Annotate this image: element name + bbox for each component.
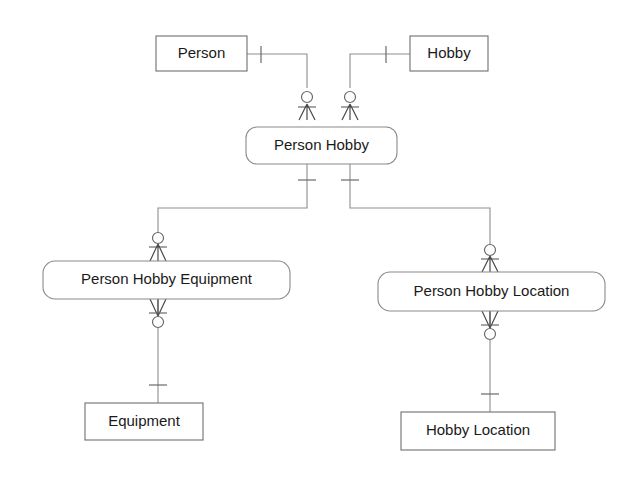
cardinality-zero-or-many-person-hobby-location-top bbox=[481, 245, 499, 273]
connector-hobby-to-person-hobby bbox=[350, 54, 410, 88]
entity-hobby-label: Hobby bbox=[427, 44, 471, 61]
connector-person-hobby-to-person-hobby-location bbox=[350, 164, 490, 251]
entity-person-hobby-label: Person Hobby bbox=[274, 136, 370, 153]
entity-hobby-location[interactable]: Hobby Location bbox=[401, 412, 555, 450]
connector-person-to-person-hobby bbox=[247, 54, 307, 88]
cardinality-zero-or-many-person-hobby-equipment-bottom bbox=[149, 299, 167, 328]
cardinality-zero-or-many-person-hobby-left bbox=[298, 92, 316, 121]
entity-person[interactable]: Person bbox=[156, 36, 247, 71]
cardinality-zero-or-many-person-hobby-equipment-top bbox=[149, 233, 167, 262]
cardinality-zero-or-many-person-hobby-right bbox=[341, 92, 359, 121]
entity-hobby[interactable]: Hobby bbox=[410, 36, 488, 71]
entity-person-hobby-location-label: Person Hobby Location bbox=[414, 282, 570, 299]
entity-person-hobby-equipment[interactable]: Person Hobby Equipment bbox=[43, 261, 290, 299]
entity-equipment[interactable]: Equipment bbox=[85, 403, 203, 440]
cardinality-zero-or-many-person-hobby-location-bottom bbox=[481, 311, 499, 340]
entity-person-label: Person bbox=[178, 44, 226, 61]
connector-person-hobby-to-person-hobby-equipment bbox=[158, 164, 307, 240]
er-diagram-svg: Person Hobby Person Hobby Person Hobby E… bbox=[0, 0, 626, 478]
entity-person-hobby-equipment-label: Person Hobby Equipment bbox=[81, 270, 253, 287]
entity-person-hobby-location[interactable]: Person Hobby Location bbox=[378, 272, 605, 311]
er-diagram-canvas: Person Hobby Person Hobby Person Hobby E… bbox=[0, 0, 626, 478]
entity-hobby-location-label: Hobby Location bbox=[426, 421, 530, 438]
entity-equipment-label: Equipment bbox=[108, 412, 181, 429]
entity-person-hobby[interactable]: Person Hobby bbox=[246, 127, 397, 164]
